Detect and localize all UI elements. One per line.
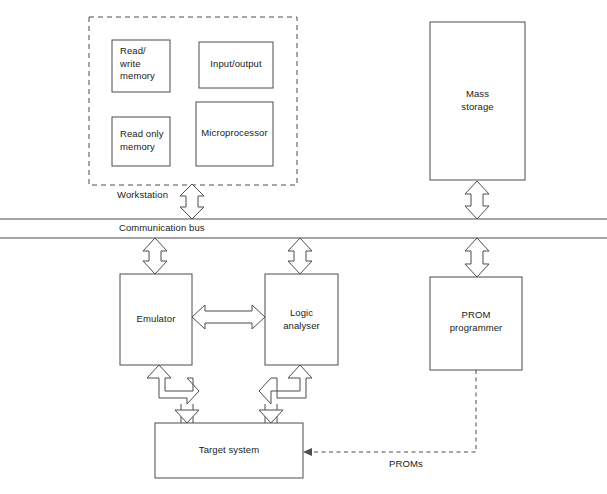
- read-write-memory-label: Read/ write memory: [120, 45, 168, 83]
- bus-to-prom-programmer-arrow: [465, 238, 489, 277]
- mass-storage-to-bus-arrow: [465, 181, 489, 219]
- workstation-group-label: Workstation: [117, 189, 197, 202]
- block-diagram: Read/ write memory Input/output Read onl…: [0, 0, 607, 494]
- prom-programmer-label: PROM programmer: [430, 309, 522, 334]
- target-system-label: Target system: [155, 444, 303, 457]
- diagram-canvas: [0, 0, 607, 494]
- bus-to-logic-analyser-arrow: [288, 238, 312, 274]
- logic-analyser-label: Logic analyser: [265, 307, 338, 332]
- prom-programmer-to-target-system-line: [310, 370, 476, 452]
- emulator-to-logic-analyser-arrow: [192, 305, 265, 329]
- emulator-label: Emulator: [120, 313, 192, 326]
- input-output-label: Input/output: [199, 58, 273, 71]
- mass-storage-label: Mass storage: [430, 88, 525, 113]
- emulator-to-target-system-arrow: [147, 365, 199, 404]
- logic-analyser-target-head: [259, 410, 283, 423]
- read-only-memory-label: Read only memory: [120, 128, 172, 153]
- microprocessor-label: Microprocessor: [196, 127, 273, 140]
- communication-bus-label: Communication bus: [119, 222, 259, 235]
- bus-to-emulator-arrow: [143, 238, 167, 274]
- proms-connection-label: PROMs: [389, 458, 449, 471]
- logic-analyser-to-target-system-arrow: [259, 365, 312, 404]
- proms-arrow-head: [303, 448, 312, 456]
- emulator-target-head: [175, 410, 199, 423]
